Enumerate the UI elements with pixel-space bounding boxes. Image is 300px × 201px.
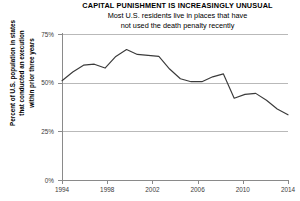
- x-tick-2006: [198, 180, 199, 184]
- x-tick-label-1998: 1998: [92, 186, 122, 193]
- x-tick-label-2014: 2014: [273, 186, 300, 193]
- x-tick-label-2006: 2006: [183, 186, 213, 193]
- y-tick-label-75: 75%: [14, 31, 54, 38]
- y-tick-label-0: 0%: [14, 177, 54, 184]
- x-tick-1994: [62, 180, 63, 184]
- chart-title: CAPITAL PUNISHMENT IS INCREASINGLY UNUSU…: [55, 1, 300, 10]
- data-series-line: [62, 34, 288, 180]
- x-tick-label-2002: 2002: [137, 186, 167, 193]
- x-tick-2002: [152, 180, 153, 184]
- x-tick-label-1994: 1994: [47, 186, 77, 193]
- x-tick-2010: [243, 180, 244, 184]
- y-tick-label-50: 50%: [14, 79, 54, 86]
- chart-subtitle-line-2: not used the death penalty recently: [55, 21, 300, 31]
- chart-figure: CAPITAL PUNISHMENT IS INCREASINGLY UNUSU…: [0, 0, 300, 201]
- y-tick-50: [58, 83, 62, 84]
- y-axis-label-line-2: that conducted an execution: [17, 5, 26, 141]
- title-block: CAPITAL PUNISHMENT IS INCREASINGLY UNUSU…: [55, 1, 300, 30]
- x-tick-2014: [288, 180, 289, 184]
- y-tick-label-25: 25%: [14, 128, 54, 135]
- x-axis-line: [62, 180, 288, 181]
- y-tick-25: [58, 131, 62, 132]
- x-tick-1998: [107, 180, 108, 184]
- y-tick-75: [58, 34, 62, 35]
- y-axis-label: Percent of U.S. population in states tha…: [8, 5, 42, 141]
- chart-subtitle: Most U.S. residents live in places that …: [55, 11, 300, 30]
- x-tick-label-2010: 2010: [228, 186, 258, 193]
- y-axis-label-line-1: Percent of U.S. population in states: [8, 5, 17, 141]
- y-axis-label-line-3: within prior three years: [27, 5, 36, 141]
- chart-subtitle-line-1: Most U.S. residents live in places that …: [55, 11, 300, 21]
